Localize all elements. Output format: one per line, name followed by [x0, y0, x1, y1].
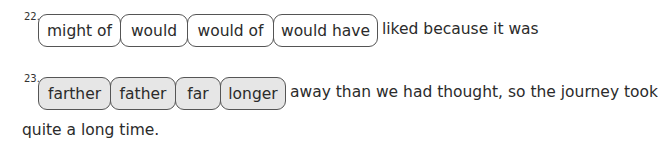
- option-would-of[interactable]: would of: [187, 14, 274, 47]
- option-father[interactable]: father: [110, 77, 176, 110]
- sentence-text: liked because it was: [382, 20, 539, 38]
- option-group: might of would would of would have: [38, 14, 377, 47]
- option-would-have[interactable]: would have: [273, 14, 378, 47]
- question-23: 23. farther father far longer away than …: [0, 60, 625, 150]
- option-might-of[interactable]: might of: [38, 14, 121, 47]
- option-farther[interactable]: farther: [38, 77, 111, 110]
- option-group: farther father far longer: [38, 77, 285, 110]
- option-far[interactable]: far: [175, 77, 221, 110]
- sentence-continuation: quite a long time.: [22, 121, 159, 139]
- option-longer[interactable]: longer: [220, 77, 286, 110]
- sentence-text: away than we had thought, so the journey…: [290, 83, 658, 101]
- option-would[interactable]: would: [120, 14, 188, 47]
- question-22: 22. might of would would of would have l…: [0, 0, 625, 60]
